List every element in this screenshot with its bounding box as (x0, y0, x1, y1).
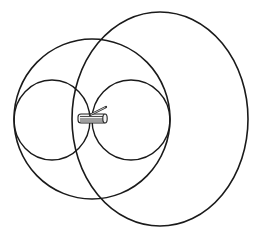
coil-end (103, 114, 107, 123)
field-pattern-diagram (0, 0, 257, 237)
coil (78, 114, 107, 123)
coil-body (78, 114, 106, 123)
